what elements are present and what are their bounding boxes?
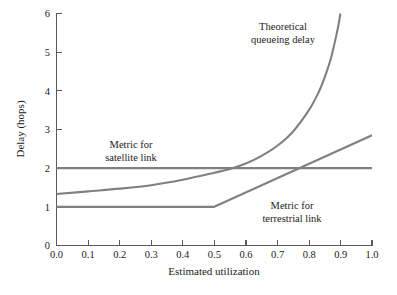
annotation-metric-terrestrial-link: Metric for terrestrial link <box>262 200 322 224</box>
y-tick-label: 5 <box>45 47 50 58</box>
y-axis-tick-labels: 0 1 2 3 4 5 6 <box>45 8 51 251</box>
x-axis-ticks <box>57 240 373 246</box>
x-tick-label: 0.6 <box>239 249 252 260</box>
annotation-line: terrestrial link <box>262 213 322 224</box>
annotation-line: Metric for <box>110 139 153 150</box>
y-tick-label: 3 <box>45 124 50 135</box>
y-axis-ticks <box>57 14 63 246</box>
annotation-line: Theoretical <box>259 21 307 32</box>
y-tick-label: 6 <box>45 8 50 19</box>
y-tick-label: 2 <box>45 163 50 174</box>
x-tick-label: 0.3 <box>145 249 158 260</box>
x-axis-title: Estimated utilization <box>168 265 260 277</box>
axes <box>57 13 373 246</box>
series-group <box>57 14 373 207</box>
annotation-line: Metric for <box>271 200 314 211</box>
x-tick-label: 0.5 <box>208 249 221 260</box>
annotation-line: queueing delay <box>251 34 316 45</box>
axis-lines <box>57 13 373 246</box>
x-tick-label: 0.7 <box>271 249 284 260</box>
x-tick-label: 0.2 <box>113 249 126 260</box>
x-tick-label: 0.8 <box>303 249 316 260</box>
annotation-theoretical-queueing-delay: Theoretical queueing delay <box>251 21 316 45</box>
chart-figure: 0 1 2 3 4 5 6 0.0 0.1 0.2 0.3 <box>0 0 397 295</box>
delay-vs-utilization-chart: 0 1 2 3 4 5 6 0.0 0.1 0.2 0.3 <box>0 0 397 295</box>
x-tick-label: 1.0 <box>365 249 378 260</box>
x-tick-label: 0.4 <box>176 249 190 260</box>
y-tick-label: 4 <box>45 86 51 97</box>
x-tick-label: 0.9 <box>334 249 347 260</box>
series-metric-terrestrial-link <box>57 135 373 207</box>
annotation-line: satellite link <box>105 152 157 163</box>
x-tick-label: 0.1 <box>82 249 95 260</box>
y-axis-title: Delay (hops) <box>14 100 27 157</box>
x-tick-label: 0.0 <box>50 249 63 260</box>
x-axis-tick-labels: 0.0 0.1 0.2 0.3 0.4 0.5 0.6 0.7 0.8 0.9 … <box>50 249 379 260</box>
y-tick-label: 1 <box>45 202 50 213</box>
annotation-metric-satellite-link: Metric for satellite link <box>105 139 157 163</box>
